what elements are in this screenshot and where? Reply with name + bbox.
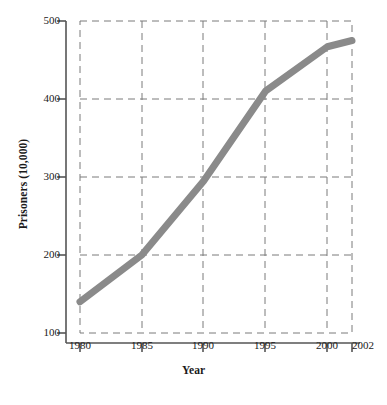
y-tick-label-100: 100 <box>20 327 60 338</box>
y-axis-title: Prisoners (10,000) <box>17 89 29 279</box>
data-series-prisoners <box>80 41 352 302</box>
x-tick-label-1985: 1985 <box>119 340 165 351</box>
y-tick-label-500: 500 <box>20 15 60 26</box>
x-tick-label-2002: 2002 <box>340 340 386 351</box>
x-tick-labels: 1980 1985 1990 1995 2000 2002 <box>0 340 387 360</box>
x-tick-label-1980: 1980 <box>57 340 103 351</box>
x-tick-label-1990: 1990 <box>180 340 226 351</box>
chart-figure: 500 400 300 200 100 1980 1985 1990 1995 … <box>0 0 387 405</box>
horizontal-gridlines <box>80 99 352 255</box>
x-axis-title: Year <box>0 364 387 376</box>
x-tick-label-1995: 1995 <box>242 340 288 351</box>
